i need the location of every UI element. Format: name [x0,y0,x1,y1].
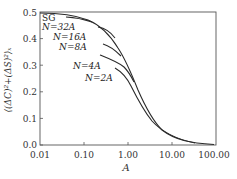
x-tick-1: 0.10 [74,150,94,160]
y-tick-0: 0.0 [23,140,38,150]
label-n2: N=2A [84,73,113,83]
curve-n8 [103,44,121,56]
x-tick-3: 10.00 [159,150,185,160]
x-tick-4: 100.00 [198,150,230,160]
y-tick-2: 0.2 [23,87,37,97]
y-tick-1: 0.1 [23,114,37,124]
y-tick-5: 0.5 [23,8,38,18]
x-tick-2: 1.00 [118,150,138,160]
chart: 0.0 0.1 0.2 0.3 0.4 0.5 0.01 0.10 1.00 1… [0,0,237,179]
curve-n2 [115,68,195,143]
label-n8: N=8A [58,42,87,52]
y-axis-title: ⟨(ΔC)²+(ΔS)²⟩ₓ [3,47,13,113]
label-n16: N=16A [52,32,87,42]
label-n4: N=4A [72,61,101,71]
x-tick-0: 0.01 [30,150,50,160]
y-tick-4: 0.4 [23,34,38,44]
y-tick-3: 0.3 [23,61,38,71]
x-axis-title: A [121,162,129,173]
label-n32: N=32A [41,22,76,32]
